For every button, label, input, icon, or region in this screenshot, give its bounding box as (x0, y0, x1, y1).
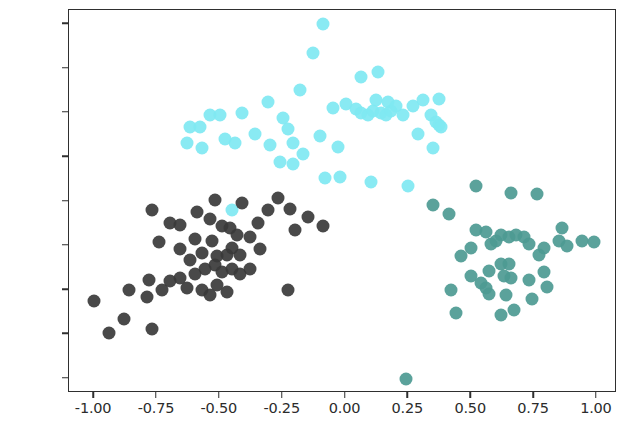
data-point (213, 108, 226, 121)
data-point (188, 268, 201, 281)
data-point (455, 250, 468, 263)
data-point (261, 204, 274, 217)
data-point (525, 293, 538, 306)
data-point (284, 202, 297, 215)
x-axis-tick-mark (344, 392, 346, 398)
data-point (196, 246, 209, 259)
x-axis-tick-label: -0.50 (201, 400, 238, 416)
data-point (123, 284, 136, 297)
data-point (191, 206, 204, 219)
data-point (88, 294, 101, 307)
data-point (274, 156, 287, 169)
data-point (281, 284, 294, 297)
data-point (173, 218, 186, 231)
x-axis-tick-mark (532, 392, 534, 398)
data-point (485, 238, 498, 251)
data-point (530, 188, 543, 201)
data-point (505, 271, 518, 284)
data-point (264, 138, 277, 151)
data-point (286, 158, 299, 171)
x-axis-tick-label: 0.25 (392, 400, 424, 416)
data-point (523, 273, 536, 286)
x-axis-tick-label: 0.50 (454, 400, 486, 416)
data-point (233, 248, 246, 261)
data-point (399, 372, 412, 385)
data-point (286, 136, 299, 149)
x-axis-tick-label: 0.75 (517, 400, 549, 416)
data-point (306, 46, 319, 59)
data-point (193, 121, 206, 134)
x-axis-tick-mark (281, 392, 283, 398)
data-point (507, 303, 520, 316)
data-point (540, 280, 553, 293)
data-point (236, 197, 249, 210)
data-point (314, 129, 327, 142)
x-axis-tick-label: 0.00 (329, 400, 361, 416)
data-point (145, 204, 158, 217)
data-point (118, 312, 131, 325)
data-point (143, 273, 156, 286)
data-point (289, 223, 302, 236)
data-point (261, 96, 274, 109)
data-point (249, 128, 262, 141)
data-point (221, 285, 234, 298)
x-axis-tick-label: -0.75 (138, 400, 175, 416)
data-point (334, 170, 347, 183)
data-point (402, 179, 415, 192)
data-point (181, 282, 194, 295)
data-point (331, 140, 344, 153)
data-point (251, 216, 264, 229)
data-point (505, 186, 518, 199)
data-point (296, 147, 309, 160)
data-point (575, 234, 588, 247)
data-point (442, 207, 455, 220)
data-point (316, 220, 329, 233)
x-axis-tick-label: -0.25 (263, 400, 300, 416)
x-axis-tick-label: -1.00 (75, 400, 112, 416)
data-point (218, 133, 231, 146)
data-point (555, 222, 568, 235)
data-point (560, 239, 573, 252)
data-point (181, 136, 194, 149)
data-point (427, 199, 440, 212)
data-point (183, 254, 196, 267)
data-point (281, 122, 294, 135)
data-point (412, 128, 425, 141)
data-point (156, 284, 169, 297)
x-axis-tick-mark (407, 392, 409, 398)
data-point (495, 308, 508, 321)
x-axis-tick-mark (595, 392, 597, 398)
data-point (145, 323, 158, 336)
x-axis-tick-mark (218, 392, 220, 398)
data-point (326, 101, 339, 114)
data-point (254, 243, 267, 256)
data-point (319, 172, 332, 185)
data-point (153, 236, 166, 249)
data-point (502, 257, 515, 270)
data-point (236, 106, 249, 119)
data-point (417, 94, 430, 107)
data-point (203, 213, 216, 226)
data-point (231, 229, 244, 242)
data-point (206, 234, 219, 247)
data-point (432, 92, 445, 105)
data-point (482, 287, 495, 300)
data-point (435, 121, 448, 134)
data-point (482, 264, 495, 277)
data-point (188, 232, 201, 245)
data-point (450, 307, 463, 320)
data-point (140, 291, 153, 304)
x-axis-tick-mark (155, 392, 157, 398)
data-point (427, 142, 440, 155)
data-point (523, 238, 536, 251)
data-point (208, 193, 221, 206)
data-point (243, 230, 256, 243)
data-point (364, 175, 377, 188)
x-axis-tick-mark (92, 392, 94, 398)
data-point (203, 289, 216, 302)
data-point (372, 66, 385, 79)
data-point (533, 248, 546, 261)
scatter-plot-figure: 1.000.750.500.250.00-0.25-0.50-0.75-1.00… (0, 0, 635, 425)
data-point (538, 266, 551, 279)
x-axis-tick-label: 1.00 (580, 400, 612, 416)
